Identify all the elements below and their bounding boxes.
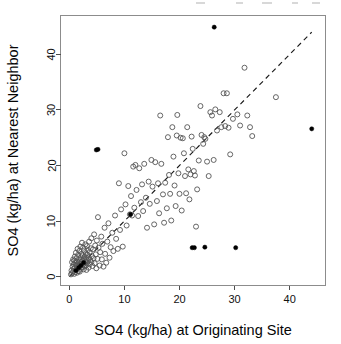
data-point-open xyxy=(157,211,162,216)
data-point-open xyxy=(119,207,124,212)
data-point-open xyxy=(120,244,125,249)
plot-area: 010203040010203040SO4 (kg/ha) at Origina… xyxy=(5,16,326,339)
data-point-open xyxy=(113,213,118,218)
data-point-open xyxy=(118,227,123,232)
data-point-open xyxy=(250,134,255,139)
data-point-filled xyxy=(96,147,100,151)
data-point-open xyxy=(152,222,157,227)
data-point-open xyxy=(172,183,177,188)
data-point-open xyxy=(129,194,134,199)
data-point-open xyxy=(186,167,191,172)
data-point-open xyxy=(94,266,99,271)
data-point-filled xyxy=(192,246,196,250)
data-point-open xyxy=(115,246,120,251)
data-point-open xyxy=(146,179,151,184)
data-point-open xyxy=(116,181,121,186)
data-point-open xyxy=(195,187,200,192)
data-point-open xyxy=(198,104,203,109)
data-point-open xyxy=(122,151,127,156)
data-point-open xyxy=(185,125,190,130)
data-point-open xyxy=(140,182,145,187)
data-point-open xyxy=(110,230,115,235)
data-point-open xyxy=(150,184,155,189)
data-point-open xyxy=(187,197,192,202)
y-axis-title: SO4 (kg/ha) at Nearest Neighbor xyxy=(5,44,21,256)
data-point-open xyxy=(194,224,199,229)
data-layer xyxy=(68,25,313,277)
data-point-open xyxy=(162,220,167,225)
data-point-open xyxy=(248,125,253,130)
data-point-open xyxy=(99,234,104,239)
data-point-open xyxy=(102,225,107,230)
data-point-open xyxy=(141,209,146,214)
data-point-filled xyxy=(310,127,314,131)
data-point-open xyxy=(211,157,216,162)
data-point-open xyxy=(107,255,112,260)
data-point-open xyxy=(190,146,195,151)
y-tick-label-10: 10 xyxy=(46,215,58,227)
data-point-open xyxy=(132,205,137,210)
data-point-open xyxy=(145,225,150,230)
data-point-open xyxy=(205,159,210,164)
data-point-open xyxy=(134,187,139,192)
data-point-open xyxy=(95,215,100,220)
data-point-filled xyxy=(212,25,216,29)
data-point-open xyxy=(181,151,186,156)
y-tick-label-30: 30 xyxy=(46,104,58,116)
data-point-open xyxy=(126,184,131,189)
x-tick-label-30: 30 xyxy=(228,293,240,305)
data-point-open xyxy=(147,201,152,206)
data-point-open xyxy=(114,236,119,241)
y-tick-label-20: 20 xyxy=(46,159,58,171)
data-point-filled xyxy=(74,268,78,272)
data-point-open xyxy=(189,134,194,139)
data-point-open xyxy=(224,91,229,96)
data-point-filled xyxy=(203,245,207,249)
data-point-open xyxy=(142,161,147,166)
scatter-plot-figure: 010203040010203040SO4 (kg/ha) at Origina… xyxy=(0,0,341,344)
plot-canvas: 010203040010203040SO4 (kg/ha) at Origina… xyxy=(0,0,341,344)
x-tick-label-20: 20 xyxy=(173,293,185,305)
data-point-open xyxy=(170,125,175,130)
data-point-open xyxy=(179,208,184,213)
data-point-open xyxy=(106,221,111,226)
data-point-open xyxy=(230,116,235,121)
data-point-filled xyxy=(128,212,132,216)
data-point-open xyxy=(206,174,211,179)
data-point-open xyxy=(158,113,163,118)
data-point-open xyxy=(273,95,278,100)
data-point-open xyxy=(136,214,141,219)
top-edge-artifacts xyxy=(196,2,320,4)
data-point-open xyxy=(167,172,172,177)
data-point-open xyxy=(183,174,188,179)
data-point-open xyxy=(98,250,103,255)
data-point-open xyxy=(242,65,247,70)
data-point-open xyxy=(217,110,222,115)
data-point-open xyxy=(169,218,174,223)
data-point-open xyxy=(164,206,169,211)
data-point-open xyxy=(168,191,173,196)
data-point-open xyxy=(92,232,97,237)
data-point-open xyxy=(123,202,128,207)
x-tick-label-0: 0 xyxy=(66,293,72,305)
data-point-open xyxy=(159,161,164,166)
data-point-open xyxy=(196,158,201,163)
data-point-open xyxy=(184,191,189,196)
data-point-open xyxy=(235,112,240,117)
data-point-open xyxy=(160,192,165,197)
data-point-open xyxy=(105,239,110,244)
data-point-open xyxy=(238,123,243,128)
data-point-open xyxy=(153,160,158,165)
data-point-open xyxy=(104,260,109,265)
data-point-open xyxy=(154,199,159,204)
data-point-open xyxy=(228,152,233,157)
data-point-filled xyxy=(82,261,86,265)
x-tick-label-10: 10 xyxy=(118,293,130,305)
data-point-open xyxy=(124,223,129,228)
x-axis-title: SO4 (kg/ha) at Originating Site xyxy=(94,322,291,338)
data-point-open xyxy=(156,181,161,186)
data-point-open xyxy=(177,191,182,196)
data-point-filled xyxy=(234,246,238,250)
x-tick-label-40: 40 xyxy=(284,293,296,305)
data-point-open xyxy=(171,154,176,159)
